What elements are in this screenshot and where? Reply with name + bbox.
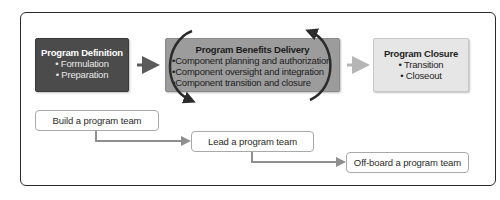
phase-item: • Formulation	[36, 58, 128, 69]
phase-item: • Transition	[374, 59, 468, 70]
phase-title: Program Benefits Delivery	[166, 44, 339, 55]
phase-item: •Component transition and closure	[166, 77, 339, 88]
phase-item: •Component planning and authorization	[166, 55, 339, 66]
phase-program-definition: Program Definition • Formulation • Prepa…	[35, 38, 129, 92]
team-step-build: Build a program team	[35, 110, 159, 131]
phase-title: Program Definition	[36, 47, 128, 58]
phase-title: Program Closure	[374, 48, 468, 59]
phase-item: • Closeout	[374, 70, 468, 81]
phase-program-benefits-delivery: Program Benefits Delivery •Component pla…	[165, 38, 340, 92]
phase-item: •Component oversight and integration	[166, 66, 339, 77]
team-step-offboard: Off-board a program team	[346, 152, 469, 173]
phase-item: • Preparation	[36, 69, 128, 80]
phase-program-closure: Program Closure • Transition • Closeout	[373, 38, 469, 92]
team-step-lead: Lead a program team	[191, 131, 314, 152]
